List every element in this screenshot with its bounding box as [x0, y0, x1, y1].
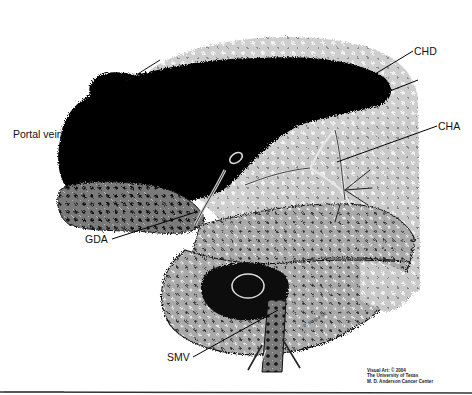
illustration-canvas: L. D. Wright '04 [0, 0, 472, 395]
anatomical-illustration: L. D. Wright '04 CHD CHA Portal vein GDA… [0, 0, 472, 395]
copyright-credit: Visual Art: © 2004 The University of Tex… [367, 368, 433, 384]
label-chd: CHD [414, 46, 437, 57]
label-gda: GDA [85, 234, 108, 245]
credit-line-3: M. D. Anderson Cancer Center [367, 379, 433, 384]
label-portal-vein: Portal vein [13, 129, 63, 140]
label-smv: SMV [167, 352, 190, 363]
page-rule-mark [4, 391, 64, 393]
label-cha: CHA [438, 121, 460, 132]
page-rule [0, 392, 472, 393]
